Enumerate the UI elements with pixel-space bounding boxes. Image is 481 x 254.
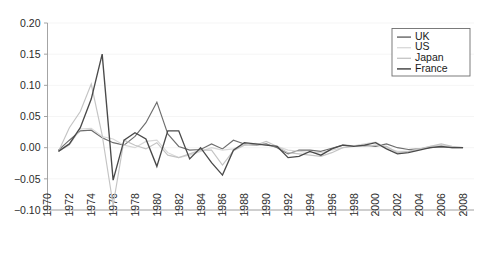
line-chart: 0.200.150.100.050.00−0.05−0.10 197019721…: [0, 0, 481, 254]
y-tick-label: 0.00: [20, 141, 41, 153]
x-tick-label: 1970: [41, 193, 53, 217]
x-tick-label: 1992: [282, 193, 294, 217]
x-tick-label: 2002: [391, 193, 403, 217]
x-tick-label: 2006: [435, 193, 447, 217]
x-tick-label: 1990: [260, 193, 272, 217]
chart-canvas: 0.200.150.100.050.00−0.05−0.10 197019721…: [0, 0, 481, 254]
x-tick-label: 1988: [238, 193, 250, 217]
x-tick-label: 1986: [216, 193, 228, 217]
x-tick-label: 1980: [151, 193, 163, 217]
x-tick-label: 1978: [129, 193, 141, 217]
x-tick-label: 1972: [63, 193, 75, 217]
x-tick-label: 1996: [326, 193, 338, 217]
x-tick-label: 2004: [413, 193, 425, 217]
y-axis-tick-labels: 0.200.150.100.050.00−0.05−0.10: [14, 17, 41, 216]
y-tick-label: 0.10: [20, 79, 41, 91]
y-tick-label: −0.10: [14, 204, 41, 216]
x-tick-label: 2000: [369, 193, 381, 217]
data-series: [58, 54, 463, 205]
y-tick-label: 0.20: [20, 17, 41, 29]
y-tick-label: 0.15: [20, 48, 41, 60]
series-line-uk: [58, 102, 463, 154]
x-tick-label: 1984: [195, 193, 207, 217]
x-tick-label: 1974: [85, 193, 97, 217]
x-tick-label: 1994: [304, 193, 316, 217]
legend-label-france: France: [415, 62, 448, 74]
x-tick-label: 1982: [173, 193, 185, 217]
y-tick-label: 0.05: [20, 110, 41, 122]
x-axis-tick-labels: 1970197219741976197819801982198419861988…: [41, 193, 469, 217]
x-tick-label: 2008: [457, 193, 469, 217]
y-tick-label: −0.05: [14, 173, 41, 185]
chart-legend: UKUSJapanFrance: [392, 29, 470, 77]
x-tick-label: 1998: [348, 193, 360, 217]
